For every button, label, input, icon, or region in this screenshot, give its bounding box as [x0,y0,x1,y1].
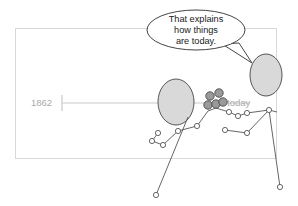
data-point [235,113,240,118]
data-point [266,107,271,112]
data-point [194,123,199,128]
cluster-point [204,101,212,109]
left-highlight-ellipse [158,79,194,125]
data-point [149,138,154,143]
cluster-point [219,98,227,106]
data-point [155,130,160,135]
timeline-diagram: 1862 today [0,0,298,206]
callout-line-2: how things [174,25,218,35]
callout-line-1: That explains [169,14,224,24]
cluster-point [206,92,214,100]
marker-endpoint-left [153,192,158,197]
figure-canvas: 1862 today [0,0,298,206]
data-point [222,127,227,132]
marker-endpoint-right [277,184,282,189]
point-cluster [204,89,227,109]
data-point [175,128,180,133]
callout-line-3: are today. [176,36,216,46]
data-point [244,130,249,135]
cluster-point [215,89,223,97]
long-descender-right [269,110,280,187]
data-point [160,142,165,147]
long-descender-left [156,117,188,195]
right-highlight-ellipse [250,54,282,96]
axis-start-label: 1862 [31,97,52,108]
data-point [226,109,231,114]
data-point [244,110,249,115]
axis-end-label: today [227,97,250,108]
